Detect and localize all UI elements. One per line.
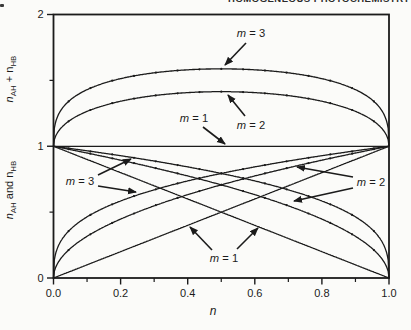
curve-point-mark: [198, 190, 200, 192]
curve-sum-m2: [54, 91, 390, 147]
annotation-m=1-2: m = 1: [180, 112, 225, 144]
y-axis: 012nAH + nHBnAH and nHB: [3, 8, 54, 284]
x-tick-label: 0.8: [314, 287, 329, 299]
annotation-arrow: [203, 127, 225, 144]
curve-point-mark: [220, 91, 222, 93]
curve-point-mark: [133, 75, 135, 77]
curve-point-mark: [351, 214, 353, 216]
curve-point-mark: [329, 80, 331, 82]
curve-point-mark: [133, 157, 135, 159]
x-axis-title: n: [210, 304, 217, 318]
curve-point-mark: [329, 153, 331, 155]
curve-point-mark: [286, 204, 288, 206]
curve-point-mark: [68, 249, 70, 251]
curve-point-mark: [155, 72, 157, 74]
y-tick-label: 1: [37, 140, 43, 152]
curve-point-mark: [133, 195, 135, 197]
curve-point-mark: [68, 147, 70, 149]
curve-point-mark: [198, 168, 200, 170]
curve-point-mark: [177, 164, 179, 166]
curve-point-mark: [307, 157, 309, 159]
curve-point-mark: [351, 153, 353, 155]
y-tick-label: 0: [37, 272, 43, 284]
curve-point-mark: [111, 80, 113, 82]
curve-point-mark: [220, 68, 222, 70]
curve-point-mark: [264, 69, 266, 71]
curve-point-mark: [286, 72, 288, 74]
annotation-label: m = 1: [180, 112, 208, 124]
curve-point-mark: [68, 230, 70, 232]
curve-point-mark: [155, 204, 157, 206]
curve-point-mark: [89, 87, 91, 89]
annotation-arrow: [190, 227, 212, 250]
curve-point-mark: [242, 178, 244, 180]
curve-point-mark: [111, 102, 113, 104]
x-tick-label: 0.4: [180, 287, 195, 299]
curve-point-mark: [373, 249, 375, 251]
curve-point-mark: [242, 68, 244, 70]
annotation-label: m = 3: [66, 175, 94, 187]
curve-point-mark: [89, 109, 91, 111]
curve-point-mark: [89, 150, 91, 152]
annotation-arrow: [228, 95, 245, 116]
curve-point-mark: [373, 120, 375, 122]
curve-point-mark: [111, 157, 113, 159]
annotation-label: m = 2: [357, 176, 385, 188]
x-axis: 0.00.20.40.60.81.0n: [46, 278, 397, 318]
curve-point-mark: [264, 164, 266, 166]
curve-point-mark: [198, 177, 200, 179]
curve-point-mark: [155, 167, 157, 169]
curve-point-mark: [329, 157, 331, 159]
curve-point-mark: [155, 188, 157, 190]
annotation-arrow: [98, 186, 136, 192]
x-tick-label: 0.6: [247, 287, 262, 299]
y-axis-title-bottom: nAH and nHB: [3, 161, 18, 220]
curve-point-mark: [307, 98, 309, 100]
curve-point-mark: [307, 75, 309, 77]
curve-point-mark: [220, 172, 222, 174]
annotation-arrow: [225, 43, 246, 65]
x-tick-label: 0.2: [113, 287, 128, 299]
curve-point-mark: [264, 172, 266, 174]
x-tick-label: 1.0: [381, 287, 396, 299]
curve-point-mark: [89, 214, 91, 216]
curve-point-mark: [155, 160, 157, 162]
annotation-label: m = 3: [237, 27, 265, 39]
curve-point-mark: [351, 87, 353, 89]
curve-point-mark: [329, 102, 331, 104]
annotation-m=3-0: m = 3: [225, 27, 265, 65]
curve-point-mark: [68, 120, 70, 122]
curve-point-mark: [111, 153, 113, 155]
curve-point-mark: [264, 182, 266, 184]
annotation-m=2-1: m = 2: [228, 95, 265, 131]
annotation-arrow: [237, 228, 258, 249]
curve-point-mark: [177, 197, 179, 199]
curve-point-mark: [307, 162, 309, 164]
curve-point-mark: [177, 172, 179, 174]
curve-point-mark: [329, 222, 331, 224]
annotation-label: m = 1: [210, 252, 238, 264]
line-chart: 0.00.20.40.60.81.0n012nAH + nHBnAH and n…: [0, 0, 411, 330]
y-axis-title-top: nAH + nHB: [3, 56, 18, 103]
annotation-label: m = 2: [237, 119, 265, 131]
curve-point-mark: [155, 94, 157, 96]
curve-point-mark: [198, 91, 200, 93]
curve-point-mark: [286, 160, 288, 162]
curve-point-mark: [111, 222, 113, 224]
curve-point-mark: [242, 190, 244, 192]
curve-point-mark: [351, 233, 353, 235]
curve-point-mark: [351, 150, 353, 152]
curve-point-mark: [242, 91, 244, 93]
curve-point-mark: [220, 184, 222, 186]
curve-point-mark: [286, 167, 288, 169]
curve-point-mark: [286, 94, 288, 96]
curve-point-mark: [264, 92, 266, 94]
annotation-arrow: [297, 167, 353, 177]
curve-point-mark: [89, 233, 91, 235]
curve-point-mark: [133, 98, 135, 100]
curve-point-mark: [68, 100, 70, 102]
figure-page: HOMOGENEOUS PHOTOCHEMISTRY 0.00.20.40.60…: [0, 0, 411, 330]
curve-point-mark: [177, 69, 179, 71]
y-tick-label: 2: [37, 8, 43, 20]
curve-point-mark: [286, 188, 288, 190]
